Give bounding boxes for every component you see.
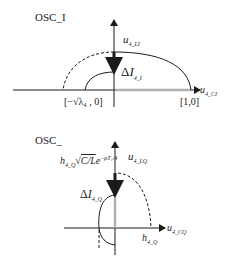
bottom-dashed-arc [118,173,151,228]
top-left-point-label: [−√λ₄ , 0] [64,97,103,107]
top-inner-arc [85,72,114,90]
top-vertical-axis-label: u4_LI [123,34,140,47]
phase-plane-diagrams [0,0,234,260]
bottom-title: OSC_ [35,135,62,146]
bottom-vertical-axis-label: u4_LQ [128,151,147,164]
top-phase-plane [13,20,200,107]
top-horizontal-axis-label: u4_CI [200,85,217,97]
top-dashed-arc [63,52,114,90]
bottom-h-point-label: h4_Q [142,233,157,245]
bottom-delta-label: ΔI4_Q [80,188,102,202]
bottom-amplitude-label: h4_Q√C/Le−ρT₄/4 [60,155,117,168]
bottom-solid-arc [99,195,115,245]
top-right-point-label: [1,0] [180,97,199,107]
top-title: OSC_I [35,12,66,23]
bottom-horizontal-axis-label: u4_CQ [167,223,186,235]
top-delta-label: ΔI4_I [121,65,142,81]
